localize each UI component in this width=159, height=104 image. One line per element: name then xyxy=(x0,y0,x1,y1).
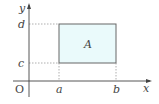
tick-label-a: a xyxy=(56,83,63,96)
y-axis-arrow-icon xyxy=(27,3,31,9)
tick-label-d: d xyxy=(18,18,25,31)
origin-label: O xyxy=(15,83,24,96)
coordinate-diagram: y d c O a b x A xyxy=(0,0,159,104)
y-axis-label: y xyxy=(18,2,26,15)
x-axis-label: x xyxy=(143,82,150,95)
tick-label-c: c xyxy=(18,57,24,70)
region-label: A xyxy=(83,38,92,51)
tick-label-b: b xyxy=(113,83,120,96)
